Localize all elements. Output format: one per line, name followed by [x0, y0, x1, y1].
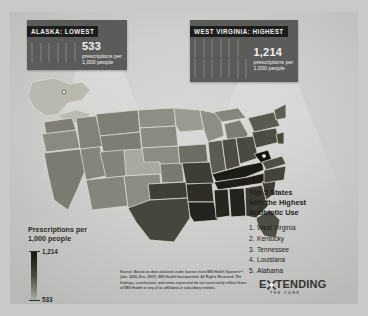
pill-icon	[31, 44, 38, 62]
logo-wordmark: E TENDING	[259, 278, 326, 290]
pill-icon	[211, 60, 218, 78]
wv-marker	[262, 154, 266, 158]
pill-icon	[203, 60, 210, 78]
top5-title-line-1: Top 5 States	[249, 188, 349, 198]
legend-scale: 1,214 533	[28, 248, 124, 304]
top5-title-line-3: Antibiotic Use	[249, 208, 349, 218]
legend-tick-min	[29, 300, 40, 301]
source-citation: Source: Based on data obtained under lic…	[120, 270, 248, 291]
list-item: 1.West Virginia	[249, 223, 349, 234]
state-MN	[174, 108, 204, 132]
pill-icon-partial	[74, 44, 77, 62]
pill-icon	[48, 44, 55, 62]
map-legend: Prescriptions per 1,000 people 1,214 533	[28, 225, 124, 304]
pill-icon-row	[194, 60, 248, 78]
top5-title-line-2: with the Highest	[249, 198, 349, 208]
ak-marker	[62, 90, 66, 94]
state-AR	[186, 183, 214, 202]
top5-rank: 4.	[249, 255, 255, 266]
callout-wv-value: 1,214	[254, 46, 294, 59]
pill-icon	[220, 40, 227, 58]
state-AK	[28, 78, 90, 116]
legend-gradient-bar	[31, 251, 37, 301]
legend-title-line-1: Prescriptions per	[28, 225, 124, 234]
top5-rank: 2.	[249, 234, 255, 245]
list-item: 2.Kentucky	[249, 234, 349, 245]
state-MO	[182, 162, 214, 184]
list-item: 3.Tennessee	[249, 245, 349, 256]
list-item: 4.Louisiana	[249, 255, 349, 266]
state-NV	[80, 146, 106, 180]
extending-the-cure-logo: E TENDING THE CURE	[259, 278, 326, 295]
state-KS	[160, 163, 184, 183]
pill-icon	[220, 60, 227, 78]
callout-alaska-header: ALASKA: LOWEST	[27, 26, 98, 37]
callout-wv-body: 1,214 prescriptions per 1,000 people	[190, 38, 298, 82]
callout-alaska-stat: 533 prescriptions per 1,000 people	[82, 40, 122, 66]
pill-icon	[228, 40, 235, 58]
state-SD	[140, 126, 178, 148]
pill-icon	[203, 40, 210, 58]
state-OR	[42, 130, 80, 152]
callout-alaska-value: 533	[82, 40, 122, 53]
state-ND	[138, 108, 176, 128]
state-AL	[229, 188, 246, 217]
state-MS	[214, 189, 230, 218]
top5-state-name: Tennessee	[257, 246, 289, 253]
infographic-poster: ALASKA: LOWEST 533 prescriptions per 1,0…	[10, 12, 358, 304]
pill-icon	[65, 44, 72, 62]
top5-state-name: Louisiana	[257, 256, 285, 263]
state-CA	[44, 149, 86, 210]
callout-wv-header: WEST VIRGINIA: HIGHEST	[190, 26, 288, 37]
pill-icon-row	[31, 44, 76, 62]
top5-rank: 3.	[249, 245, 255, 256]
pill-icon-group-alaska	[31, 44, 76, 62]
state-NE-states	[274, 104, 286, 120]
legend-value-max: 1,214	[42, 248, 58, 255]
logo-wordmark-rest: TENDING	[276, 278, 327, 290]
callout-wv-unit-2: 1,000 people	[254, 65, 294, 71]
callout-alaska-unit-2: 1,000 people	[82, 59, 122, 65]
state-IA	[178, 144, 208, 164]
callout-wv-stat: 1,214 prescriptions per 1,000 people	[254, 46, 294, 72]
logo-x-icon	[267, 279, 276, 290]
legend-value-min: 533	[42, 296, 53, 303]
logo-tagline: THE CURE	[270, 291, 326, 295]
legend-title-line-2: 1,000 people	[28, 234, 124, 243]
pill-icon-row	[194, 40, 248, 58]
top5-state-name: Kentucky	[257, 235, 284, 242]
top5-rank: 1.	[249, 223, 255, 234]
pill-icon	[237, 40, 244, 58]
state-TX	[128, 198, 190, 242]
top5-state-name: West Virginia	[257, 224, 296, 231]
pill-icon	[194, 60, 201, 78]
top5-rank: 5.	[249, 266, 255, 277]
state-OK	[148, 182, 188, 200]
state-AZ	[86, 176, 128, 210]
top-5-states-panel: Top 5 States with the Highest Antibiotic…	[249, 188, 349, 277]
pill-icon	[228, 60, 235, 78]
legend-tick-max	[29, 251, 40, 252]
us-choropleth-map	[24, 70, 286, 245]
pill-icon-partial	[245, 60, 248, 78]
callout-alaska-lowest: ALASKA: LOWEST 533 prescriptions per 1,0…	[27, 20, 127, 70]
top5-state-name: Alabama	[257, 267, 283, 274]
pill-icon	[211, 40, 218, 58]
list-item: 5.Alabama	[249, 266, 349, 277]
state-LA	[188, 202, 218, 222]
pill-icon	[57, 44, 64, 62]
pill-icon	[40, 44, 47, 62]
pill-icon	[194, 40, 201, 58]
state-MT	[96, 110, 140, 136]
pill-icon	[237, 60, 244, 78]
callout-alaska-body: 533 prescriptions per 1,000 people	[27, 38, 127, 70]
top5-list: 1.West Virginia 2.Kentucky 3.Tennessee 4…	[249, 223, 349, 276]
pill-icon-group-wv	[194, 40, 248, 78]
logo-letter-e: E	[259, 278, 267, 290]
callout-west-virginia-highest: WEST VIRGINIA: HIGHEST	[190, 20, 298, 82]
